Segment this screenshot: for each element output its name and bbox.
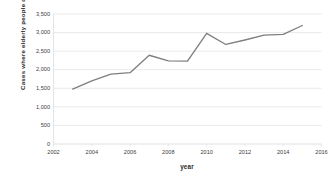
x-tick-label: 2010 [192, 149, 222, 155]
x-tick-label: 2002 [39, 149, 69, 155]
y-tick-label: 2,000 [4, 66, 50, 72]
x-tick-label: 2006 [115, 149, 145, 155]
y-tick-label: 3,000 [4, 29, 50, 35]
x-tick-label: 2008 [153, 149, 183, 155]
y-tick-label: 1,000 [4, 104, 50, 110]
y-tick-label: 3,500 [4, 11, 50, 17]
y-axis-title: Cases where elderly people died alone [19, 0, 26, 100]
x-tick-label: 2014 [268, 149, 298, 155]
x-tick-label: 2016 [307, 149, 332, 155]
y-tick-label: 500 [4, 122, 50, 128]
y-tick-label: 1,500 [4, 85, 50, 91]
x-tick-label: 2012 [230, 149, 260, 155]
line-chart-figure: 05001,0001,5002,0002,5003,0003,500 20022… [0, 0, 332, 177]
y-tick-label: 2,500 [4, 48, 50, 54]
x-axis-title: year [53, 163, 321, 170]
data-series-line [73, 26, 303, 90]
y-tick-label: 0 [4, 141, 50, 147]
gridlines-group [54, 14, 322, 144]
x-tick-label: 2004 [77, 149, 107, 155]
